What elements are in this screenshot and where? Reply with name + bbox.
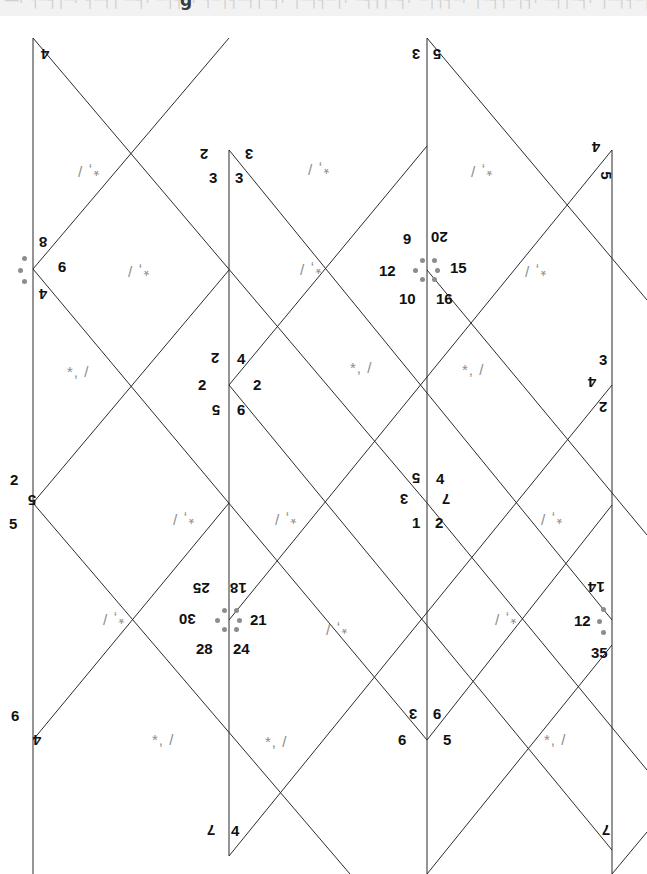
vertex-number-label: 25 bbox=[193, 581, 210, 596]
edge-diag-b8 bbox=[427, 645, 612, 874]
vertex-number-label: 2 bbox=[10, 472, 18, 487]
vertex-number-label: 7 bbox=[442, 492, 450, 507]
vertex-dot bbox=[222, 627, 227, 632]
vertex-number-label: 21 bbox=[250, 612, 267, 627]
vertex-number-label: 3 bbox=[235, 170, 243, 185]
vertex-number-label: 5 bbox=[433, 47, 441, 62]
vertex-number-label: 4 bbox=[39, 287, 47, 302]
vertex-number-label: 3 bbox=[409, 707, 417, 722]
edge-diag-a8 bbox=[427, 503, 647, 770]
vertex-number-label: 14 bbox=[588, 580, 605, 595]
vertex-number-label: 12 bbox=[574, 613, 591, 628]
edge-diag-a2 bbox=[33, 269, 427, 740]
orientation-mark: *, / bbox=[77, 164, 99, 179]
vertex-number-label: 4 bbox=[436, 471, 444, 486]
vertex-number-label: 28 bbox=[196, 641, 213, 656]
vertex-number-label: 7 bbox=[602, 823, 610, 838]
vertex-dot bbox=[22, 279, 27, 284]
edge-diag-a7 bbox=[427, 270, 647, 535]
vertex-dot bbox=[413, 268, 418, 273]
vertex-number-label: 5 bbox=[443, 732, 451, 747]
vertex-number-label: 4 bbox=[231, 823, 239, 838]
orientation-mark: *, / bbox=[172, 512, 194, 527]
vertex-number-label: 20 bbox=[431, 230, 448, 245]
orientation-mark: *, / bbox=[462, 362, 484, 377]
orientation-mark: *, / bbox=[350, 360, 372, 375]
vertex-number-label: 5 bbox=[9, 516, 17, 531]
orientation-mark: *, / bbox=[494, 612, 516, 627]
orientation-mark: *, / bbox=[152, 732, 174, 747]
vertex-number-label: 9 bbox=[58, 260, 66, 275]
vertex-number-label: 5 bbox=[28, 493, 36, 508]
vertex-number-label: 9 bbox=[237, 403, 245, 418]
vertex-number-label: 6 bbox=[398, 732, 406, 747]
orientation-mark: *, / bbox=[274, 512, 296, 527]
vertex-number-label: 4 bbox=[33, 733, 41, 748]
vertex-dot bbox=[432, 277, 437, 282]
triangular-net-canvas: ·—⌐┐─┤│─⌐┤─┐│└─┤⌐─│┤─⌐┐─│┤─┐│─┤⌐│─┐┤─│⌐─… bbox=[0, 0, 647, 874]
vertex-dot bbox=[432, 258, 437, 263]
vertex-number-label: 4 bbox=[588, 375, 596, 390]
vertex-number-label: 1 bbox=[412, 515, 420, 530]
vertex-dot bbox=[237, 618, 242, 623]
vertex-number-label: 5 bbox=[412, 471, 420, 486]
edge-diag-b9 bbox=[612, 832, 647, 874]
vertex-number-label: 2 bbox=[200, 147, 208, 162]
orientation-mark: *, / bbox=[540, 512, 562, 527]
vertex-number-label: 18 bbox=[230, 581, 247, 596]
vertex-number-label: 8 bbox=[39, 235, 47, 250]
vertex-number-label: 2 bbox=[198, 377, 206, 392]
edge-diag-b3 bbox=[33, 503, 229, 740]
vertex-number-label: 2 bbox=[253, 377, 261, 392]
edge-diag-a5 bbox=[229, 385, 612, 850]
vertex-number-label: 3 bbox=[245, 147, 253, 162]
vertex-number-label: 2 bbox=[435, 515, 443, 530]
orientation-mark: *, / bbox=[470, 164, 492, 179]
vertex-dot bbox=[215, 618, 220, 623]
vertex-number-label: 4 bbox=[592, 140, 600, 155]
vertex-dot bbox=[420, 277, 425, 282]
vertex-number-label: 30 bbox=[179, 612, 196, 627]
orientation-mark: *, / bbox=[544, 732, 566, 747]
vertex-number-label: 10 bbox=[399, 291, 416, 306]
vertex-number-label: 6 bbox=[403, 232, 411, 247]
vertex-number-label: 2 bbox=[599, 400, 607, 415]
orientation-mark: *, / bbox=[299, 262, 321, 277]
vertex-dot bbox=[222, 608, 227, 613]
vertex-number-label: 3 bbox=[400, 492, 408, 507]
vertex-dot bbox=[234, 627, 239, 632]
vertex-number-label: 16 bbox=[436, 291, 453, 306]
vertex-dot bbox=[601, 630, 606, 635]
vertex-number-label: 35 bbox=[591, 645, 608, 660]
vertex-number-label: 12 bbox=[379, 263, 396, 278]
edge-diag-b4 bbox=[229, 385, 612, 856]
vertex-number-label: 4 bbox=[41, 47, 49, 62]
vertex-number-label: 3 bbox=[209, 170, 217, 185]
vertex-dot bbox=[597, 619, 602, 624]
vertex-number-label: 5 bbox=[599, 171, 614, 179]
vertex-dot bbox=[234, 608, 239, 613]
orientation-mark: *, / bbox=[524, 264, 546, 279]
edge-diag-b6 bbox=[229, 146, 427, 385]
orientation-mark: *, / bbox=[307, 162, 329, 177]
vertex-number-label: 2 bbox=[211, 351, 219, 366]
vertex-number-label: 15 bbox=[450, 260, 467, 275]
vertex-dot bbox=[435, 268, 440, 273]
orientation-mark: *, / bbox=[127, 264, 149, 279]
vertex-number-label: 4 bbox=[237, 351, 245, 366]
vertex-number-label: 6 bbox=[11, 708, 19, 723]
vertex-number-label: 24 bbox=[233, 641, 250, 656]
orientation-mark: *, / bbox=[325, 622, 347, 637]
orientation-mark: *, / bbox=[265, 734, 287, 749]
vertex-number-label: 3 bbox=[412, 47, 420, 62]
vertex-number-label: 7 bbox=[207, 823, 215, 838]
orientation-mark: *, / bbox=[102, 612, 124, 627]
vertex-number-label: 5 bbox=[212, 403, 220, 418]
vertex-dot bbox=[601, 607, 606, 612]
vertex-dot bbox=[18, 268, 23, 273]
vertex-dot bbox=[420, 258, 425, 263]
vertex-dot bbox=[22, 256, 27, 261]
edge-diag-a3 bbox=[33, 503, 350, 874]
orientation-mark: *, / bbox=[67, 364, 89, 379]
vertex-number-label: 9 bbox=[433, 707, 441, 722]
